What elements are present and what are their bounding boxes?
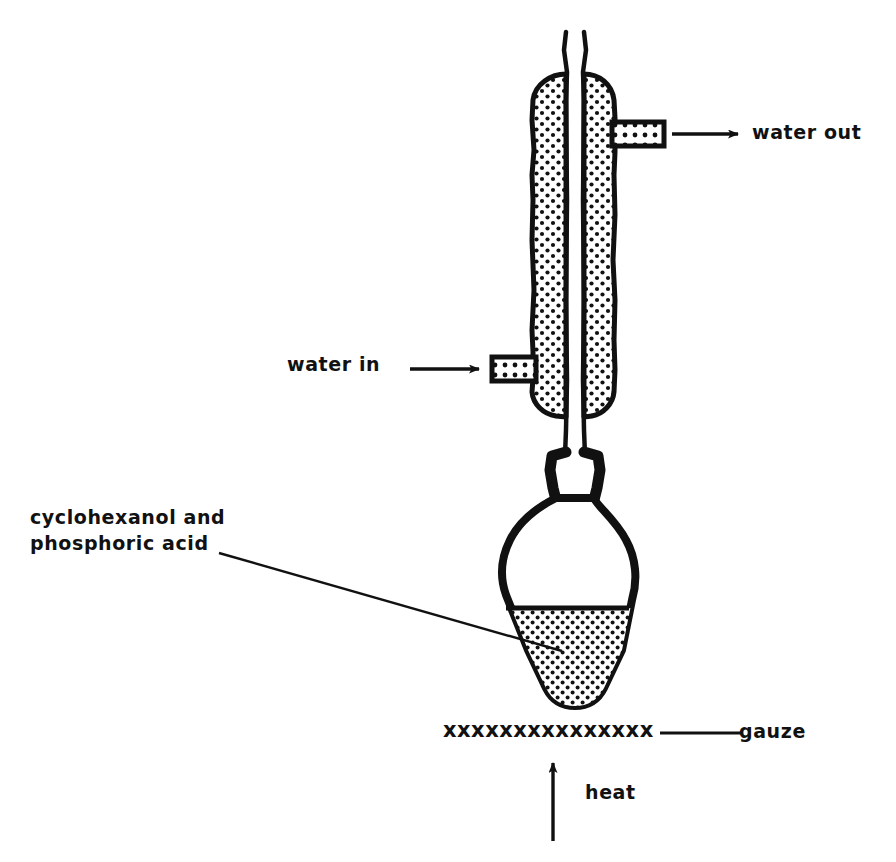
reaction-flask [495, 498, 645, 718]
diagram-canvas: water out water in cyclohexanol and phos… [0, 0, 896, 862]
ground-glass-joint [550, 452, 600, 500]
reagents-label-line1: cyclohexanol and [30, 505, 225, 531]
water-out-port [612, 122, 664, 146]
joint-right [584, 452, 600, 500]
reagents-label-line2: phosphoric acid [30, 531, 225, 557]
reagents-label: cyclohexanol and phosphoric acid [30, 505, 225, 556]
water-in-tube [492, 357, 536, 381]
gauze-mesh-marks: xxxxxxxxxxxxxxx [443, 718, 654, 742]
joint-left [550, 452, 566, 500]
water-out-label: water out [752, 120, 861, 146]
water-in-port [492, 357, 536, 381]
gauze-label: gauze [739, 719, 806, 745]
water-out-tube [612, 122, 664, 146]
water-in-label: water in [287, 352, 380, 378]
inner-vapour-tube [564, 32, 586, 455]
heat-label: heat [585, 780, 636, 806]
